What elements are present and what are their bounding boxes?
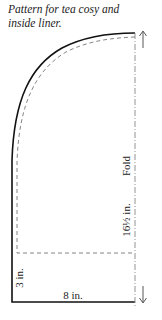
side-height-label: 3 in. [13, 268, 25, 288]
outer-cutting-line [12, 33, 135, 302]
liner-dashed-line [17, 37, 135, 253]
width-label: 8 in. [63, 289, 83, 301]
up-arrow-icon [140, 31, 147, 48]
pattern-diagram: Fold 16½ in. 3 in. 8 in. [0, 0, 162, 320]
fold-label: Fold [120, 155, 132, 176]
height-label: 16½ in. [120, 203, 132, 237]
down-arrow-icon [140, 286, 147, 303]
